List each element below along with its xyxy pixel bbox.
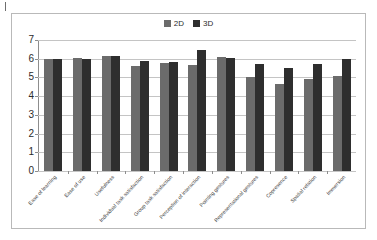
bar-3d[interactable] xyxy=(255,64,264,171)
bar-group xyxy=(183,40,212,171)
y-tick-label: 1 xyxy=(28,147,34,157)
x-axis-label-cell: Spatial relation xyxy=(298,173,327,229)
bar-2d[interactable] xyxy=(304,79,313,171)
scan-artifact-mark xyxy=(5,2,6,11)
bar-3d[interactable] xyxy=(82,59,91,171)
legend-label: 3D xyxy=(203,19,213,28)
bar-2d[interactable] xyxy=(275,84,284,171)
bar-3d[interactable] xyxy=(284,68,293,171)
x-axis-label-cell: Ease of use xyxy=(68,173,97,229)
y-tick-label: 3 xyxy=(28,110,34,120)
bar-2d[interactable] xyxy=(131,66,140,171)
x-axis-label: Usefulness xyxy=(93,174,115,197)
plot-area: 76543210 xyxy=(38,40,356,171)
plot-inner: 76543210 xyxy=(38,40,356,171)
bar-3d[interactable] xyxy=(197,50,206,171)
bar-2d[interactable] xyxy=(333,76,342,171)
bar-group xyxy=(39,40,68,171)
x-axis-label-cell: Representational gestures xyxy=(241,173,270,229)
bars-layer xyxy=(39,40,356,171)
bar-2d[interactable] xyxy=(246,77,255,171)
y-tick-mark-0 xyxy=(35,171,38,172)
bar-2d[interactable] xyxy=(102,56,111,171)
legend-entry-2d[interactable]: 2D xyxy=(164,19,184,28)
chart-container: 2D3D 76543210 Ease of learningEase of us… xyxy=(11,13,366,229)
x-axis-label: Immersion xyxy=(325,174,346,196)
y-tick-mark-1 xyxy=(35,152,38,153)
y-tick-label: 5 xyxy=(28,72,34,82)
bar-3d[interactable] xyxy=(111,56,120,171)
bar-3d[interactable] xyxy=(140,61,149,171)
x-axis-labels: Ease of learningEase of useUsefulnessInd… xyxy=(39,173,356,229)
bar-2d[interactable] xyxy=(44,59,53,171)
square-swatch-icon xyxy=(164,20,171,27)
legend-entry-3d[interactable]: 3D xyxy=(193,19,213,28)
bar-group xyxy=(125,40,154,171)
bar-3d[interactable] xyxy=(226,58,235,171)
bar-2d[interactable] xyxy=(73,58,82,171)
bar-group xyxy=(68,40,97,171)
bar-group xyxy=(327,40,356,171)
y-tick-label: 7 xyxy=(28,35,34,45)
square-swatch-icon xyxy=(193,20,200,27)
x-axis-label: Ease of learning xyxy=(27,174,58,206)
bar-3d[interactable] xyxy=(53,59,62,171)
bar-group xyxy=(270,40,299,171)
y-tick-label: 6 xyxy=(28,54,34,64)
bar-group xyxy=(154,40,183,171)
x-axis-label-cell: Immersion xyxy=(327,173,356,229)
y-tick-mark-5 xyxy=(35,77,38,78)
y-tick-mark-2 xyxy=(35,134,38,135)
bar-3d[interactable] xyxy=(342,59,351,171)
y-tick-label: 4 xyxy=(28,91,34,101)
bar-3d[interactable] xyxy=(169,62,178,171)
bar-group xyxy=(97,40,126,171)
gridline-0 xyxy=(38,171,356,172)
y-tick-mark-6 xyxy=(35,59,38,60)
x-axis-label-cell: Ease of learning xyxy=(39,173,68,229)
legend-label: 2D xyxy=(174,19,184,28)
bar-2d[interactable] xyxy=(160,63,169,171)
bar-group xyxy=(212,40,241,171)
y-tick-mark-7 xyxy=(35,40,38,41)
y-tick-mark-4 xyxy=(35,96,38,97)
bar-3d[interactable] xyxy=(313,64,322,171)
y-tick-label: 0 xyxy=(28,166,34,176)
chart-legend: 2D3D xyxy=(12,19,365,28)
bar-group xyxy=(241,40,270,171)
y-tick-mark-3 xyxy=(35,115,38,116)
y-tick-label: 2 xyxy=(28,129,34,139)
bar-2d[interactable] xyxy=(188,65,197,171)
bar-2d[interactable] xyxy=(217,57,226,171)
bar-group xyxy=(298,40,327,171)
